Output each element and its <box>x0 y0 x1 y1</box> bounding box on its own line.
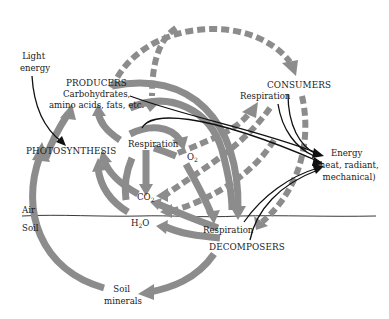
decomposer-respiration-to-energy-arrow-2 <box>250 170 318 240</box>
producers-to-consumers-dashed-arrow <box>112 29 290 88</box>
soil-minerals-label: Soil minerals <box>104 284 142 306</box>
co2-label: CO2 <box>137 192 155 203</box>
air-soil-boundary-line <box>22 215 376 216</box>
consumers-title: CONSUMERS <box>267 80 331 90</box>
producers-line2: amino acids, fats, etc. <box>49 100 144 110</box>
decomposers-to-soil-minerals-arrow <box>150 254 214 292</box>
decomposer-respiration-label: Respiration <box>203 225 254 235</box>
o2-to-decomposers-arrow <box>186 164 212 216</box>
energy-label: Energy (heat, radiant, mechanical) <box>316 148 381 182</box>
air-label: Air <box>21 205 36 215</box>
soil-minerals-to-photosynthesis-arrow <box>33 156 104 288</box>
decomposers-title: DECOMPOSERS <box>209 242 285 252</box>
producers-line1: Carbohydrates, <box>63 89 130 99</box>
arrowhead-icon <box>156 220 168 234</box>
arrowhead-icon <box>282 60 298 76</box>
h2o-label: H2O <box>131 218 149 229</box>
respiration-to-producers-arrow <box>98 112 120 140</box>
consumer-respiration-to-energy-arrow-1 <box>278 104 314 156</box>
o2-to-respiration-arrow <box>154 148 176 156</box>
producers-title: PRODUCERS <box>66 78 127 88</box>
o2-label: O2 <box>187 152 198 163</box>
light-energy-label: Light energy <box>20 51 50 73</box>
consumer-respiration-label: Respiration <box>240 91 291 101</box>
soil-label: Soil <box>22 223 39 233</box>
decomposer-respiration-to-energy-arrow-1 <box>244 168 318 222</box>
ecosystem-cycle-diagram: Light energy PRODUCERS Carbohydrates, am… <box>0 0 389 319</box>
producer-respiration-label: Respiration <box>128 139 179 149</box>
photosynthesis-label: PHOTOSYNTHESIS <box>26 146 116 156</box>
